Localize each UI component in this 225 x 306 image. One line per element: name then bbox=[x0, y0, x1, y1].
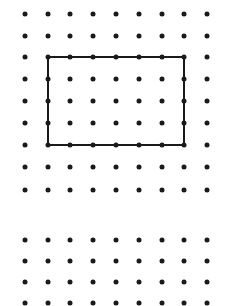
grid-dot bbox=[137, 12, 142, 17]
grid-dot bbox=[182, 301, 187, 306]
grid-dot bbox=[205, 143, 210, 148]
grid-dot bbox=[205, 188, 210, 193]
grid-dot bbox=[205, 77, 210, 82]
grid-dot bbox=[160, 280, 165, 285]
grid-dot bbox=[114, 280, 119, 285]
grid-dot bbox=[68, 238, 73, 243]
grid-dot bbox=[160, 165, 165, 170]
grid-dot bbox=[205, 34, 210, 39]
grid-dot bbox=[205, 301, 210, 306]
grid-dot bbox=[137, 259, 142, 264]
grid-dot bbox=[137, 280, 142, 285]
grid-dot bbox=[205, 238, 210, 243]
grid-dot bbox=[137, 34, 142, 39]
grid-dot bbox=[68, 280, 73, 285]
grid-dot bbox=[160, 12, 165, 17]
grid-dot bbox=[114, 34, 119, 39]
grid-dot bbox=[160, 238, 165, 243]
grid-dot bbox=[23, 77, 28, 82]
grid-dot bbox=[205, 12, 210, 17]
grid-dot bbox=[160, 34, 165, 39]
grid-dot bbox=[182, 259, 187, 264]
grid-dot bbox=[205, 121, 210, 126]
grid-dot bbox=[91, 34, 96, 39]
grid-dot bbox=[114, 301, 119, 306]
grid-dot bbox=[137, 301, 142, 306]
grid-dot bbox=[160, 188, 165, 193]
grid-dot bbox=[182, 12, 187, 17]
grid-dot bbox=[205, 259, 210, 264]
grid-dot bbox=[68, 34, 73, 39]
grid-dot bbox=[23, 55, 28, 60]
grid-dot bbox=[23, 99, 28, 104]
grid-dot bbox=[91, 238, 96, 243]
grid-dot bbox=[46, 12, 51, 17]
grid-dot bbox=[23, 259, 28, 264]
grid-dot bbox=[205, 55, 210, 60]
grid-dot bbox=[68, 259, 73, 264]
grid-dot bbox=[46, 280, 51, 285]
grid-dot bbox=[114, 165, 119, 170]
grid-dot bbox=[46, 301, 51, 306]
grid-dot bbox=[114, 12, 119, 17]
grid-dot bbox=[46, 259, 51, 264]
grid-dot bbox=[68, 12, 73, 17]
grid-dot bbox=[205, 165, 210, 170]
grid-dot bbox=[46, 165, 51, 170]
grid-dot bbox=[46, 188, 51, 193]
grid-dot bbox=[137, 165, 142, 170]
rectangle-outline bbox=[47, 56, 185, 146]
grid-dot bbox=[23, 238, 28, 243]
grid-dot bbox=[205, 280, 210, 285]
grid-dot bbox=[23, 34, 28, 39]
grid-dot bbox=[23, 143, 28, 148]
grid-dot bbox=[91, 188, 96, 193]
grid-dot bbox=[160, 259, 165, 264]
grid-dot bbox=[182, 238, 187, 243]
grid-dot bbox=[114, 259, 119, 264]
grid-dot bbox=[46, 34, 51, 39]
grid-dot bbox=[137, 188, 142, 193]
grid-dot bbox=[23, 165, 28, 170]
grid-dot bbox=[23, 301, 28, 306]
grid-dot bbox=[182, 188, 187, 193]
grid-dot bbox=[23, 121, 28, 126]
grid-dot bbox=[182, 165, 187, 170]
grid-dot bbox=[114, 188, 119, 193]
grid-dot bbox=[160, 301, 165, 306]
grid-dot bbox=[114, 238, 119, 243]
grid-dot bbox=[182, 34, 187, 39]
grid-dot bbox=[68, 301, 73, 306]
grid-dot bbox=[68, 165, 73, 170]
grid-dot bbox=[182, 280, 187, 285]
grid-dot bbox=[91, 259, 96, 264]
grid-dot bbox=[91, 165, 96, 170]
grid-dot bbox=[91, 12, 96, 17]
grid-dot bbox=[68, 188, 73, 193]
grid-dot bbox=[205, 99, 210, 104]
grid-dot bbox=[46, 238, 51, 243]
grid-dot bbox=[91, 280, 96, 285]
grid-dot bbox=[91, 301, 96, 306]
grid-dot bbox=[23, 12, 28, 17]
grid-dot bbox=[137, 238, 142, 243]
grid-dot bbox=[23, 280, 28, 285]
grid-dot bbox=[23, 188, 28, 193]
